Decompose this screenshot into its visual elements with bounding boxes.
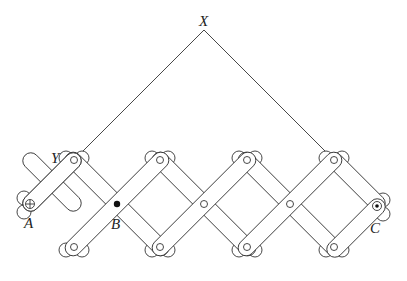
pivot-y — [71, 157, 78, 164]
pivot-b-tracer-icon — [114, 201, 120, 207]
label-b: B — [111, 216, 120, 232]
pantograph-diagram: X Y A B C — [0, 0, 407, 281]
line-x-y — [74, 30, 204, 160]
label-c: C — [370, 220, 381, 236]
line-x-right — [204, 30, 334, 160]
label-x: X — [198, 13, 209, 29]
label-a: A — [23, 215, 34, 231]
